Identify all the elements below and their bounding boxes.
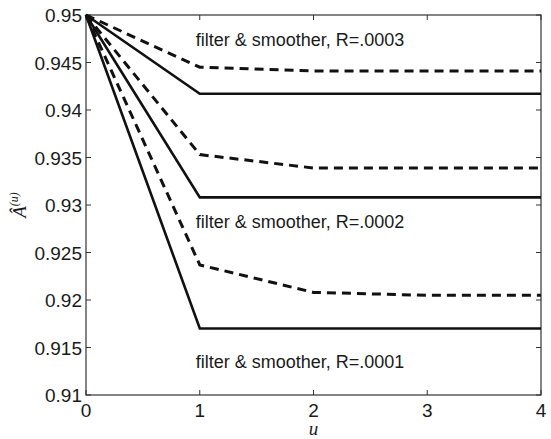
y-tick-label: 0.91 bbox=[45, 385, 82, 406]
x-tick-label: 3 bbox=[422, 400, 433, 421]
annotation-label: filter & smoother, R=.0003 bbox=[196, 30, 405, 50]
annotation-label: filter & smoother, R=.0002 bbox=[196, 212, 405, 232]
y-tick-label: 0.925 bbox=[34, 243, 82, 264]
y-axis-label-sup: (u) bbox=[7, 192, 21, 206]
x-tick-label: 1 bbox=[194, 400, 205, 421]
annotation-label: filter & smoother, R=.0001 bbox=[196, 352, 405, 372]
y-tick-label: 0.935 bbox=[34, 148, 82, 169]
y-tick-label: 0.93 bbox=[45, 195, 82, 216]
y-axis-label: Â(u) bbox=[7, 192, 30, 220]
y-tick-label: 0.92 bbox=[45, 290, 82, 311]
x-tick-label: 4 bbox=[536, 400, 547, 421]
x-axis-label: u bbox=[309, 418, 319, 439]
chart: 01234 0.910.9150.920.9250.930.9350.940.9… bbox=[0, 0, 551, 439]
y-tick-label: 0.95 bbox=[45, 5, 82, 26]
y-axis-label-base: Â bbox=[9, 206, 30, 220]
svg-text:Â(u): Â(u) bbox=[7, 192, 30, 220]
y-tick-label: 0.945 bbox=[34, 53, 82, 74]
y-tick-label: 0.915 bbox=[34, 338, 82, 359]
y-tick-label: 0.94 bbox=[45, 100, 82, 121]
x-tick-label: 0 bbox=[81, 400, 92, 421]
